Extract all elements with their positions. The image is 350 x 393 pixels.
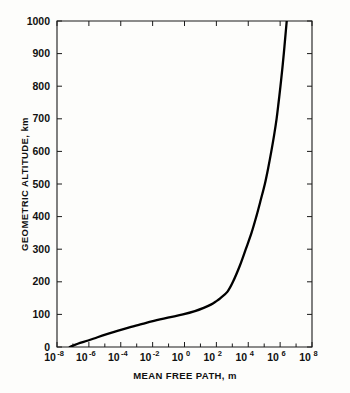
x-tick-label: 106 [267, 349, 285, 363]
x-axis-tick-labels: 10-810-610-410-2100102104106108 [44, 349, 317, 363]
y-tick-label: 100 [32, 308, 50, 320]
y-tick-label: 600 [32, 145, 50, 157]
x-tick-label-mantissa: 10 [108, 351, 120, 363]
y-tick-label: 0 [44, 341, 50, 353]
y-tick-label: 500 [32, 178, 50, 190]
x-tick-label: 102 [204, 349, 222, 363]
x-axis-ticks [57, 21, 312, 347]
x-tick-label-mantissa: 10 [299, 351, 311, 363]
chart-canvas: 10-810-610-410-2100102104106108 01002003… [0, 0, 350, 393]
x-axis-title: MEAN FREE PATH, m [133, 370, 237, 381]
y-axis-tick-labels: 01002003004005006007008009001000 [27, 15, 51, 353]
x-tick-label-exponent: -4 [121, 349, 128, 358]
x-tick-label-exponent: 4 [250, 349, 255, 358]
y-tick-label: 800 [32, 80, 50, 92]
y-tick-label: 900 [32, 47, 50, 59]
x-tick-label-mantissa: 10 [76, 351, 88, 363]
y-axis-ticks [57, 21, 312, 347]
mean-free-path-curve [70, 21, 287, 347]
x-tick-label: 104 [235, 349, 254, 363]
y-tick-label: 400 [32, 210, 50, 222]
x-tick-label-exponent: -8 [57, 349, 64, 358]
x-tick-label-mantissa: 10 [235, 351, 247, 363]
x-tick-label: 10-6 [76, 349, 96, 363]
x-tick-label: 108 [299, 349, 317, 363]
x-tick-label-exponent: -6 [89, 349, 96, 358]
plot-border [57, 21, 312, 347]
chart-page: 10-810-610-410-2100102104106108 01002003… [0, 0, 350, 393]
x-tick-label: 10-4 [108, 349, 129, 363]
plot-frame [57, 21, 312, 347]
y-tick-label: 700 [32, 112, 50, 124]
x-tick-label: 10-2 [140, 349, 160, 363]
x-tick-label-mantissa: 10 [44, 351, 56, 363]
y-tick-label: 300 [32, 243, 50, 255]
x-tick-label-exponent: 2 [218, 349, 222, 358]
data-curve [70, 21, 287, 347]
x-tick-label-exponent: 8 [313, 349, 317, 358]
y-tick-label: 200 [32, 275, 50, 287]
y-axis-title: GEOMETRIC ALTITUDE, km [19, 117, 30, 251]
mean-free-path-altitude-chart: 10-810-610-410-2100102104106108 01002003… [0, 0, 350, 393]
y-tick-label: 1000 [27, 15, 51, 27]
x-tick-label-mantissa: 10 [267, 351, 279, 363]
x-tick-label-mantissa: 10 [172, 351, 184, 363]
x-tick-label-exponent: 0 [186, 349, 190, 358]
x-tick-label: 100 [172, 349, 190, 363]
x-tick-label-exponent: -2 [153, 349, 160, 358]
x-tick-label-mantissa: 10 [204, 351, 216, 363]
x-tick-label-exponent: 6 [282, 349, 286, 358]
x-tick-label-mantissa: 10 [140, 351, 152, 363]
